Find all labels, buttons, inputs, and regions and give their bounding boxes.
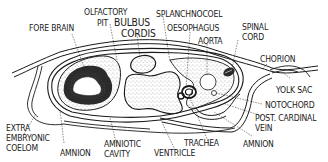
label-splanchnocoel: SPLANCHNOCOEL (156, 10, 222, 19)
label-vein: VEIN (255, 124, 272, 133)
label-coelom: COELOM (6, 144, 38, 153)
label-amnion-right: AMNION (243, 140, 274, 149)
label-post-cardinal: POST. CARDINAL (255, 114, 316, 123)
notochord (212, 91, 217, 96)
label-pit: PIT (97, 19, 108, 28)
label-amnion-left: AMNION (60, 149, 91, 158)
embryo-diagram: FORE BRAIN OLFACTORY PIT BULBUS CORDIS S… (0, 0, 328, 162)
label-notochord: NOTOCHORD (265, 101, 314, 110)
aorta (200, 74, 216, 90)
label-bulbus: BULBUS (114, 18, 150, 27)
label-chorion: CHORION (260, 55, 295, 64)
label-extra: EXTRA (6, 124, 30, 133)
bulbus-cordis (131, 56, 156, 74)
label-trachea: TRACHEA (184, 139, 219, 148)
label-oesophagus: OESOPHAGUS (167, 24, 219, 33)
label-fore-brain: FORE BRAIN (29, 24, 74, 33)
label-olfactory: OLFACTORY (84, 8, 127, 17)
label-embryonic: EMBRYONIC (6, 134, 50, 143)
label-yolk-sac: YOLK SAC (276, 86, 312, 95)
label-cord: CORD (242, 33, 264, 42)
label-aorta: AORTA (198, 37, 222, 46)
label-cavity: CAVITY (104, 150, 130, 159)
label-spinal: SPINAL (242, 23, 268, 32)
label-amniotic: AMNIOTIC (104, 140, 141, 149)
label-cordis: CORDIS (121, 29, 156, 38)
label-ventricle: VENTRICLE (154, 149, 195, 158)
fore-brain (58, 56, 121, 110)
ventricle (124, 72, 182, 114)
